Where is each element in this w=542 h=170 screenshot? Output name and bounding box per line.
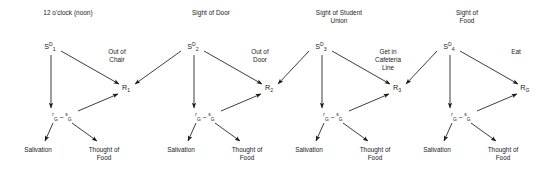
- arrow-sd-to-response-4: [460, 51, 518, 84]
- arrow-goal-to-response-2: [221, 94, 261, 111]
- response-edge-label-2: Out ofDoor: [251, 48, 268, 64]
- outcome-thought-of-food-2: Thought ofFood: [232, 146, 263, 162]
- unit-header-1: 12 o'clock (noon): [43, 9, 92, 17]
- outcome-thought-of-food-4: Thought ofFood: [488, 146, 519, 162]
- response-node-2: R2: [265, 84, 273, 92]
- arrow-goal-to-salivation-1: [45, 123, 53, 141]
- arrow-goal-to-thought-4: [471, 123, 496, 141]
- discriminative-stimulus-node-2: SD2: [187, 43, 198, 51]
- outcome-thought-of-food-1: Thought ofFood: [89, 146, 120, 162]
- arrow-goal-to-thought-3: [343, 123, 368, 141]
- discriminative-stimulus-node-4: SD4: [443, 43, 454, 51]
- goal-response-node-3: rG – sG: [323, 113, 342, 121]
- response-edge-label-1: Out ofChair: [108, 48, 125, 64]
- arrow-goal-to-thought-2: [215, 123, 240, 141]
- response-node-4: RG: [520, 84, 529, 92]
- discriminative-stimulus-node-1: SD1: [44, 43, 55, 51]
- arrow-goal-to-response-4: [477, 94, 517, 111]
- arrow-sd-to-previous-response-2: [135, 51, 181, 84]
- arrow-goal-to-salivation-4: [444, 123, 452, 141]
- arrow-sd-to-previous-response-3: [278, 51, 309, 84]
- behavior-chain-diagram: 12 o'clock (noon)SD1rG – sGR1Out ofChair…: [0, 0, 542, 170]
- unit-header-4: Sight ofFood: [456, 9, 478, 25]
- arrow-goal-to-response-1: [78, 94, 118, 111]
- arrow-sd-to-previous-response-4: [406, 51, 437, 84]
- outcome-thought-of-food-3: Thought ofFood: [360, 146, 391, 162]
- outcome-salivation-3: Salivation: [295, 146, 323, 154]
- arrow-goal-to-salivation-2: [188, 123, 196, 141]
- goal-response-node-2: rG – sG: [195, 113, 214, 121]
- response-node-3: R3: [393, 84, 401, 92]
- unit-header-3: Sight of StudentUnion: [316, 9, 362, 25]
- goal-response-node-1: rG – sG: [52, 113, 71, 121]
- goal-response-node-4: rG – sG: [451, 113, 470, 121]
- discriminative-stimulus-node-3: SD3: [315, 43, 326, 51]
- response-node-1: R1: [122, 84, 130, 92]
- arrow-goal-to-thought-1: [72, 123, 97, 141]
- arrow-goal-to-response-3: [349, 94, 389, 111]
- outcome-salivation-1: Salivation: [24, 146, 52, 154]
- unit-header-2: Sight of Door: [192, 9, 230, 17]
- arrow-goal-to-salivation-3: [316, 123, 324, 141]
- outcome-salivation-2: Salivation: [167, 146, 195, 154]
- response-edge-label-4: Eat: [511, 48, 521, 56]
- response-edge-label-3: Get inCafeteriaLine: [375, 48, 401, 73]
- outcome-salivation-4: Salivation: [423, 146, 451, 154]
